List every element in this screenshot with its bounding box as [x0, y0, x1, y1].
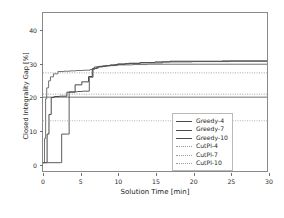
y-tick-label: 30 — [29, 60, 37, 67]
plot-clip — [43, 13, 267, 171]
series-layer — [43, 13, 267, 171]
x-tick — [231, 173, 232, 176]
x-tick — [194, 173, 195, 176]
legend-label: CutPl-10 — [196, 159, 222, 167]
y-tick-label: 40 — [29, 26, 37, 33]
plot-area: 051015202530 010203040 — [42, 12, 268, 172]
y-tick-label: 0 — [33, 161, 37, 168]
y-tick — [40, 64, 43, 65]
legend-label: CutPl-4 — [196, 142, 218, 150]
x-tick — [156, 173, 157, 176]
series-line-greedy-4 — [43, 61, 267, 163]
legend-item-cutpl-10: CutPl-10 — [176, 159, 228, 167]
y-tick — [40, 97, 43, 98]
y-tick — [40, 131, 43, 132]
series-line-greedy-7 — [43, 64, 267, 162]
legend-label: Greedy-10 — [196, 134, 228, 142]
x-axis-title: Solution Time [min] — [42, 188, 268, 196]
legend-item-greedy-4: Greedy-4 — [176, 117, 228, 125]
legend-item-cutpl-7: CutPl-7 — [176, 151, 228, 159]
x-tick-label: 20 — [190, 178, 198, 185]
x-tick-label: 30 — [265, 178, 273, 185]
legend-swatch-icon — [176, 118, 192, 125]
legend-swatch-icon — [176, 143, 192, 150]
x-tick-label: 25 — [227, 178, 235, 185]
series-line-greedy-10 — [43, 61, 267, 162]
y-tick-label: 10 — [29, 127, 37, 134]
y-tick-label: 20 — [29, 94, 37, 101]
legend-item-greedy-10: Greedy-10 — [176, 134, 228, 142]
legend-label: CutPl-7 — [196, 151, 218, 159]
x-tick-label: 10 — [114, 178, 122, 185]
legend-swatch-icon — [176, 126, 192, 133]
legend-item-cutpl-4: CutPl-4 — [176, 142, 228, 150]
legend-label: Greedy-7 — [196, 125, 224, 133]
legend-swatch-icon — [176, 160, 192, 167]
x-tick-label: 0 — [41, 178, 45, 185]
legend-swatch-icon — [176, 134, 192, 141]
legend-swatch-icon — [176, 151, 192, 158]
x-tick-label: 15 — [152, 178, 160, 185]
chart-figure: Closed Integrality Gap [%] 051015202530 … — [0, 0, 284, 218]
x-tick — [43, 173, 44, 176]
x-tick — [269, 173, 270, 176]
x-tick-label: 5 — [79, 178, 83, 185]
y-tick — [40, 30, 43, 31]
x-tick — [118, 173, 119, 176]
chart-legend: Greedy-4Greedy-7Greedy-10CutPl-4CutPl-7C… — [172, 113, 233, 171]
y-tick — [40, 165, 43, 166]
legend-item-greedy-7: Greedy-7 — [176, 125, 228, 133]
x-tick — [81, 173, 82, 176]
legend-label: Greedy-4 — [196, 117, 224, 125]
